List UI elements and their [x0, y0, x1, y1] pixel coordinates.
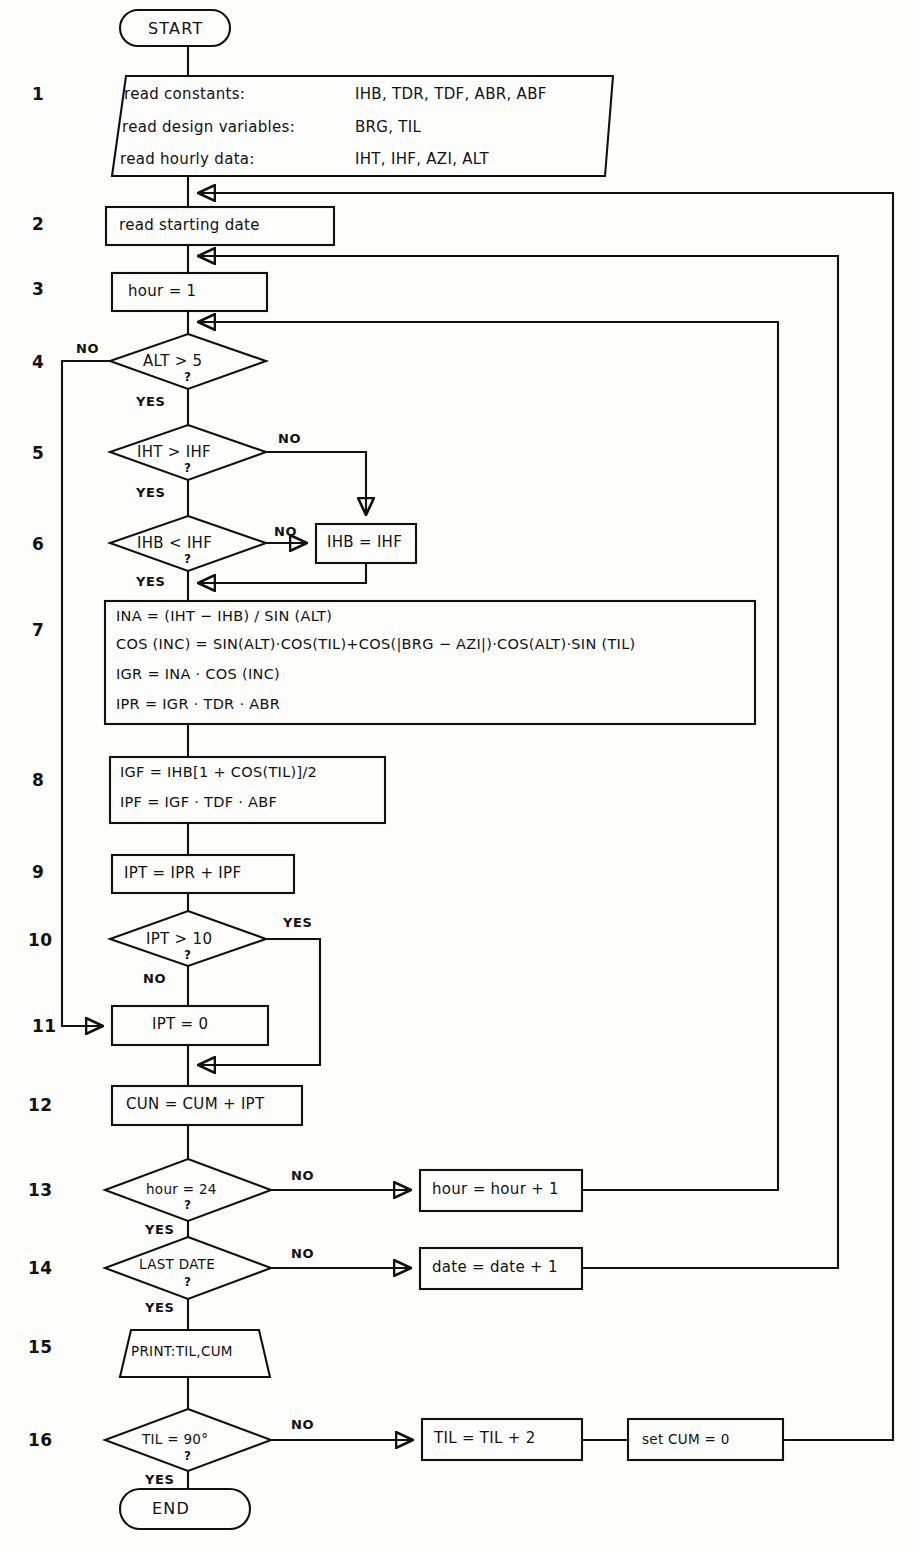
step-number-12: 12 [28, 1095, 52, 1115]
step7-formula-2: COS (INC) = SIN(ALT)·COS(TIL)+COS(|BRG −… [116, 637, 635, 652]
step-number-9: 9 [32, 862, 44, 882]
step5-question-mark: ? [184, 461, 191, 475]
step11-label: IPT = 0 [152, 1015, 208, 1033]
step13b-label: hour = hour + 1 [432, 1180, 559, 1198]
step-number-11: 11 [32, 1016, 56, 1036]
step1-line3-vars: IHT, IHF, AZI, ALT [355, 150, 489, 168]
edge-label-step4-no: NO [76, 341, 99, 356]
step16-question-mark: ? [184, 1449, 191, 1463]
step1-line2-label: read design variables: [122, 118, 295, 136]
step4-label: ALT > 5 [143, 352, 202, 370]
edge-label-step5-no: NO [278, 431, 301, 446]
step-number-14: 14 [28, 1258, 52, 1278]
edge-label-step4-yes: YES [136, 394, 165, 409]
edge-label-step6-yes: YES [136, 574, 165, 589]
edge-label-step10-no: NO [143, 971, 166, 986]
edge-label-step10-yes: YES [283, 915, 312, 930]
step6b-label: IHB = IHF [327, 533, 402, 551]
step1-line1-label: read constants: [124, 85, 245, 103]
step13-label: hour = 24 [146, 1181, 217, 1197]
step8-formula-1: IGF = IHB[1 + COS(TIL)]/2 [120, 765, 317, 780]
step-number-13: 13 [28, 1180, 52, 1200]
step-number-6: 6 [32, 534, 44, 554]
step14b-label: date = date + 1 [432, 1258, 558, 1276]
edge-label-step14-no: NO [291, 1246, 314, 1261]
edge-label-step13-no: NO [291, 1168, 314, 1183]
edge-4no-to-11 [62, 361, 110, 1026]
step4-question-mark: ? [184, 370, 191, 384]
step6-question-mark: ? [184, 552, 191, 566]
step-number-4: 4 [32, 352, 44, 372]
step15-label: PRINT:TIL,CUM [131, 1343, 233, 1359]
flowchart-canvas: 1 2 3 4 5 6 7 8 9 10 11 12 13 14 15 16 S… [0, 0, 915, 1550]
edge-label-step16-no: NO [291, 1417, 314, 1432]
step-number-10: 10 [28, 930, 52, 950]
step16-label: TIL = 90° [142, 1431, 208, 1447]
step10-question-mark: ? [184, 948, 191, 962]
start-label: START [148, 19, 203, 38]
step-number-5: 5 [32, 443, 44, 463]
edge-label-step16-yes: YES [145, 1472, 174, 1487]
step12-label: CUN = CUM + IPT [126, 1095, 264, 1113]
step16c-label: set CUM = 0 [642, 1431, 730, 1447]
step16b-label: TIL = TIL + 2 [434, 1429, 536, 1447]
edge-10yes-to-spine [198, 939, 320, 1065]
step5-label: IHT > IHF [137, 443, 211, 461]
step1-line3-label: read hourly data: [120, 150, 255, 168]
step-number-15: 15 [28, 1337, 52, 1357]
step7-formula-1: INA = (IHT − IHB) / SIN (ALT) [116, 609, 332, 624]
step-number-1: 1 [32, 84, 44, 104]
step-number-7: 7 [32, 620, 44, 640]
step-number-8: 8 [32, 770, 44, 790]
step7-formula-3: IGR = INA · COS (INC) [116, 667, 280, 682]
step8-formula-2: IPF = IGF · TDF · ABF [120, 795, 277, 810]
edge-label-step5-yes: YES [136, 485, 165, 500]
step-number-2: 2 [32, 214, 44, 234]
step14-label: LAST DATE [139, 1256, 215, 1272]
step-number-3: 3 [32, 279, 44, 299]
step7-formula-4: IPR = IGR · TDR · ABR [116, 697, 280, 712]
edge-5no-to-6b [266, 452, 366, 515]
step-number-16: 16 [28, 1430, 52, 1450]
step13-question-mark: ? [184, 1198, 191, 1212]
step9-label: IPT = IPR + IPF [124, 864, 241, 882]
step6-label: IHB < IHF [137, 534, 212, 552]
end-label: END [152, 1499, 190, 1518]
step14-question-mark: ? [184, 1275, 191, 1289]
edge-label-step13-yes: YES [145, 1222, 174, 1237]
step2-label: read starting date [119, 216, 260, 234]
edge-6b-to-spine [198, 563, 366, 583]
edge-label-step6-no: NO [274, 524, 297, 539]
step10-label: IPT > 10 [146, 930, 212, 948]
edge-label-step14-yes: YES [145, 1300, 174, 1315]
step1-line1-vars: IHB, TDR, TDF, ABR, ABF [355, 85, 547, 103]
edge-14b-loop-to-3 [198, 256, 838, 1268]
step3-label: hour = 1 [128, 282, 196, 300]
step1-line2-vars: BRG, TIL [355, 118, 421, 136]
